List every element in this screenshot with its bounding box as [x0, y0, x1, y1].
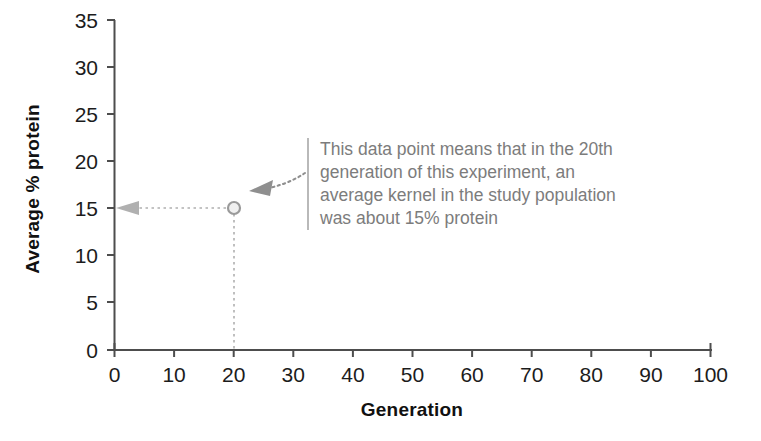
- annotation-line-3: average kernel in the study population: [320, 184, 647, 207]
- x-tick-label-60: 60: [442, 364, 502, 385]
- callout-arrow: [249, 173, 305, 196]
- y-axis-title: Average % protein: [22, 89, 44, 289]
- callout-arrow-curve: [268, 173, 305, 188]
- annotation-line-4: was about 15% protein: [320, 207, 647, 230]
- x-tick-label-20: 20: [204, 364, 264, 385]
- y-tick-label-30: 30: [52, 57, 98, 78]
- callout-arrow-head: [249, 180, 273, 196]
- annotation-line-2: generation of this experiment, an: [320, 161, 647, 184]
- y-tick-label-0: 0: [52, 340, 98, 361]
- y-tick-label-15: 15: [52, 198, 98, 219]
- horizontal-leader-arrowhead: [116, 201, 139, 215]
- x-tick-label-100: 100: [681, 364, 741, 385]
- data-point-annotation: This data point means that in the 20th g…: [307, 138, 647, 230]
- annotation-line-1: This data point means that in the 20th: [320, 138, 647, 161]
- y-tick-label-10: 10: [52, 245, 98, 266]
- chart-figure: 35 30 25 20 15 10 5 0 0 10 20 30 40 50 6…: [0, 0, 761, 441]
- x-tick-label-70: 70: [502, 364, 562, 385]
- x-tick-label-40: 40: [323, 364, 383, 385]
- data-point-marker[interactable]: [228, 202, 240, 214]
- x-tick-label-30: 30: [263, 364, 323, 385]
- guide-lines: [116, 201, 234, 349]
- x-axis-title: Generation: [312, 399, 512, 421]
- y-tick-label-35: 35: [52, 10, 98, 31]
- x-tick-label-10: 10: [144, 364, 204, 385]
- x-tick-label-0: 0: [85, 364, 145, 385]
- x-tick-label-80: 80: [561, 364, 621, 385]
- y-tick-label-25: 25: [52, 104, 98, 125]
- x-tick-label-90: 90: [621, 364, 681, 385]
- y-tick-label-20: 20: [52, 151, 98, 172]
- x-tick-label-50: 50: [383, 364, 443, 385]
- y-tick-label-5: 5: [52, 292, 98, 313]
